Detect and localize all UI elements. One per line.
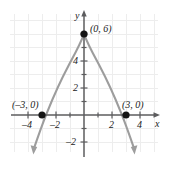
x-tick-label-neg4: –4 [22, 120, 32, 130]
x-axis-arrow [154, 112, 161, 117]
x-axis-name: x [155, 119, 159, 129]
coordinate-plane-svg [0, 0, 169, 169]
point-right-x-intercept [122, 111, 129, 118]
y-axis-arrow [81, 10, 86, 17]
x-tick-label-2: 2 [109, 120, 114, 130]
y-tick-label-2: 2 [73, 83, 78, 93]
x-tick-label-neg2: –2 [50, 120, 60, 130]
right-x-intercept-point-label: (3, 0) [122, 100, 144, 110]
y-tick-label-4: 4 [73, 56, 78, 66]
point-vertex [80, 30, 87, 37]
vertex-point-label: (0, 6) [90, 24, 112, 34]
parabola-graph-figure: (0, 6) (–3, 0) (3, 0) –4 –2 2 4 4 2 –2 y… [0, 0, 169, 169]
point-left-x-intercept [38, 111, 45, 118]
y-tick-label-neg2: –2 [66, 137, 76, 147]
y-axis-name: y [75, 11, 79, 21]
x-tick-label-4: 4 [137, 120, 142, 130]
left-x-intercept-point-label: (–3, 0) [12, 100, 39, 110]
